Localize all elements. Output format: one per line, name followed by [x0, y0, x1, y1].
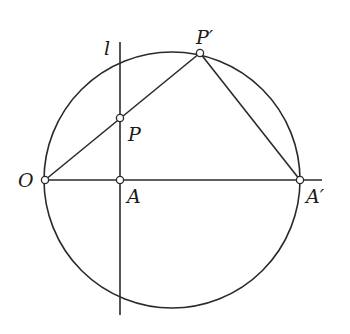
- point-p-prime: [196, 49, 203, 56]
- label-l: l: [104, 37, 110, 59]
- label-p-prime: P′: [195, 26, 214, 48]
- label-a: A: [125, 185, 141, 207]
- inversion-diagram: l P′ P O A A′: [0, 0, 350, 334]
- label-a-prime: A′: [304, 185, 325, 207]
- label-o: O: [18, 169, 34, 191]
- point-a: [116, 176, 123, 183]
- point-p: [116, 114, 123, 121]
- point-o: [41, 176, 48, 183]
- point-a-prime: [296, 176, 303, 183]
- label-p: P: [127, 123, 142, 145]
- segment-p-prime-a-prime: [200, 53, 300, 180]
